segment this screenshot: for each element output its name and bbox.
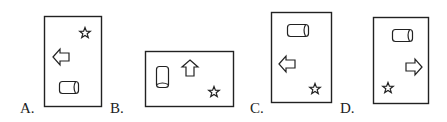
panel-frame: [374, 18, 429, 104]
option-a-panel: [45, 17, 102, 107]
option-b-panel: [146, 52, 234, 107]
cylinder-icon: [157, 67, 169, 88]
cylinder-icon: [60, 82, 79, 94]
cylinder-icon: [288, 25, 309, 37]
star-icon: [310, 84, 321, 94]
options-figure: [0, 0, 447, 122]
panel-frame: [272, 13, 332, 103]
star-icon: [209, 87, 220, 97]
arrow-up-icon: [182, 60, 198, 76]
star-icon: [383, 83, 394, 93]
option-c-panel: [272, 13, 332, 103]
arrow-left-icon: [279, 56, 295, 72]
option-d-panel: [374, 18, 429, 104]
arrow-right-icon: [406, 59, 422, 75]
arrow-left-icon: [53, 49, 69, 65]
cylinder-icon: [393, 30, 413, 42]
star-icon: [80, 28, 91, 38]
